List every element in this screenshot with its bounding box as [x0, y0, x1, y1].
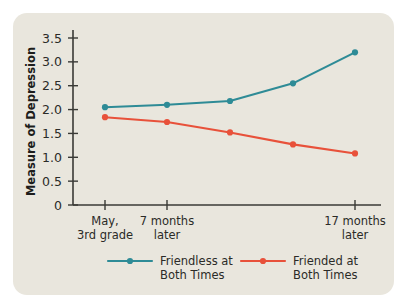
data-point: [352, 49, 358, 55]
x-axis-tick-label: May,: [91, 214, 118, 228]
y-axis-tick-label: 2.5: [42, 78, 62, 93]
legend-marker-1: [127, 258, 133, 264]
x-axis-tick-label: 3rd grade: [77, 228, 133, 242]
x-axis-tick-label: 7 months: [140, 214, 194, 228]
data-point: [352, 150, 358, 156]
data-point: [102, 104, 108, 110]
data-point: [227, 98, 233, 104]
y-axis-tick-label: 0: [54, 198, 62, 213]
data-point: [164, 119, 170, 125]
y-axis-tick-label: 2.0: [42, 102, 62, 117]
legend-label-1: Friendless at: [160, 254, 233, 268]
x-axis-tick-label: 17 months: [324, 214, 386, 228]
y-axis-tick-label: 1.5: [42, 126, 62, 141]
legend-label-1-line2: Both Times: [160, 268, 225, 282]
legend-marker-2: [260, 258, 266, 264]
y-axis-tick-label: 1.0: [42, 150, 62, 165]
data-point: [290, 141, 296, 147]
y-axis-tick-label: 3.5: [42, 31, 62, 46]
chart-panel: 00.51.01.52.02.53.03.5Measure of Depress…: [13, 13, 394, 295]
x-axis-tick-label: later: [342, 228, 369, 242]
data-point: [102, 114, 108, 120]
data-point: [290, 80, 296, 86]
data-point: [227, 129, 233, 135]
y-axis-tick-label: 0.5: [42, 174, 62, 189]
legend-label-2-line2: Both Times: [293, 268, 358, 282]
data-point: [164, 102, 170, 108]
x-axis-tick-label: later: [154, 228, 181, 242]
line-chart: 00.51.01.52.02.53.03.5Measure of Depress…: [13, 13, 394, 295]
y-axis-title: Measure of Depression: [24, 47, 38, 196]
legend-label-2: Friended at: [293, 254, 358, 268]
y-axis-tick-label: 3.0: [42, 54, 62, 69]
